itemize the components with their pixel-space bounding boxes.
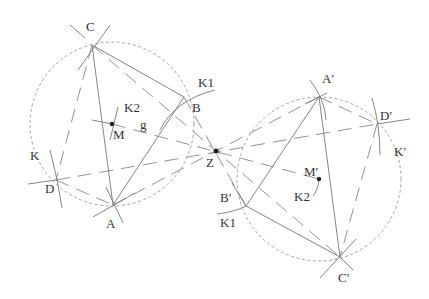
label-m-prime: M′ <box>304 164 319 179</box>
label-a-prime: A′ <box>322 71 334 86</box>
label-a: A <box>106 216 116 231</box>
arc-mark-c1 <box>70 25 85 38</box>
arc-mark-b-prime <box>232 183 246 206</box>
label-k2: K2 <box>124 100 140 115</box>
label-m: M <box>113 127 125 142</box>
label-c: C <box>86 19 95 34</box>
arc-mark-a-prime2 <box>305 93 327 104</box>
label-c-prime: C′ <box>338 270 350 285</box>
arc-k2-prime <box>313 179 319 196</box>
label-k2-prime: K2 <box>294 189 310 204</box>
edge-cb <box>92 45 184 97</box>
label-b-prime: B′ <box>220 190 232 205</box>
point-m <box>110 122 114 126</box>
label-k1: K1 <box>198 75 214 90</box>
label-d-prime: D′ <box>380 108 392 123</box>
label-k-prime: K′ <box>394 144 406 159</box>
edge-d-prime-c-prime <box>340 124 377 257</box>
label-k1-prime: K1 <box>220 215 236 230</box>
arc-mark-c-prime2 <box>340 257 353 270</box>
arc-mark-a1 <box>93 193 135 217</box>
label-d: D <box>45 181 54 196</box>
edge-cd <box>56 45 92 180</box>
edge-a-prime-c-prime <box>319 97 340 257</box>
label-g: g <box>140 117 147 132</box>
edge-b-prime-c-prime <box>246 206 340 257</box>
point-z <box>214 149 219 154</box>
edge-a-prime-d-prime <box>319 97 377 124</box>
point-reflection-diagram: C B A D M K K1 K2 g Z A′ D′ K′ M′ K2 B′ … <box>0 0 429 299</box>
label-k: K <box>30 148 40 163</box>
label-b: B <box>192 100 201 115</box>
label-z: Z <box>206 155 214 170</box>
edge-ca <box>92 45 113 205</box>
arc-k1-prime <box>217 206 246 214</box>
